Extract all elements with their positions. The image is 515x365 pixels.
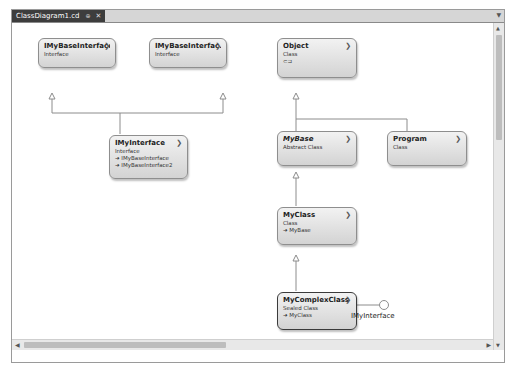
- shape-myclass[interactable]: MyClass Class ➜ MyBase ❯: [277, 207, 357, 245]
- chevron-down-icon[interactable]: ❯: [345, 211, 351, 219]
- chevron-down-icon[interactable]: ❯: [345, 296, 351, 304]
- chevron-down-icon[interactable]: ❯: [345, 135, 351, 143]
- tab-classdiagram[interactable]: ClassDiagram1.cd⊕✕: [12, 10, 105, 22]
- shape-mybase[interactable]: MyBase Abstract Class ❯: [277, 131, 357, 166]
- scroll-down-icon[interactable]: ▼: [496, 342, 500, 348]
- shape-imybaseinterface2[interactable]: IMyBaseInterfac... Interface ❯: [149, 38, 227, 68]
- chevron-down-icon[interactable]: ❯: [215, 42, 221, 50]
- vertical-scrollbar[interactable]: ▲ ▼: [493, 23, 504, 350]
- scroll-right-icon[interactable]: ▶: [486, 341, 491, 348]
- chevron-down-icon[interactable]: ❯: [455, 135, 461, 143]
- inherits-item: ➜ IMyBaseInterface2: [115, 162, 182, 168]
- horizontal-scrollbar[interactable]: ◀ ▶: [12, 339, 494, 350]
- shape-imybaseinterface[interactable]: IMyBaseInterface Interface ❯: [38, 38, 116, 68]
- lollipop-label: IMyInterface: [351, 312, 395, 320]
- diagram-canvas[interactable]: IMyBaseInterface Interface ❯ IMyBaseInte…: [12, 23, 494, 350]
- close-icon[interactable]: ✕: [95, 12, 101, 20]
- inherits-item: ➜ IMyBaseInterface: [115, 155, 182, 161]
- vertical-scroll-thumb[interactable]: [496, 35, 502, 140]
- chevron-down-icon[interactable]: ❯: [176, 139, 182, 147]
- compartment-toggle-icon[interactable]: ⊂⊐: [283, 58, 351, 64]
- inherits-item: ➜ MyBase: [283, 227, 351, 233]
- class-diagram-window: ClassDiagram1.cd⊕✕ ▼: [11, 9, 505, 363]
- connectors: [12, 23, 494, 350]
- shape-imyinterface[interactable]: IMyInterface Interface ➜ IMyBaseInterfac…: [109, 135, 188, 179]
- shape-mycomplexclass[interactable]: MyComplexClass Sealed Class ➜ MyClass ❯: [277, 292, 357, 330]
- tab-dropdown-icon[interactable]: ▼: [496, 11, 501, 18]
- shape-program[interactable]: Program Class ❯: [387, 131, 467, 166]
- pin-icon[interactable]: ⊕: [85, 12, 90, 19]
- scroll-left-icon[interactable]: ◀: [15, 341, 20, 348]
- shape-object[interactable]: Object Class ⊂⊐ ❯: [277, 38, 357, 78]
- chevron-down-icon[interactable]: ❯: [345, 42, 351, 50]
- scroll-up-icon[interactable]: ▲: [496, 25, 500, 31]
- chevron-down-icon[interactable]: ❯: [104, 42, 110, 50]
- inherits-item: ➜ MyClass: [283, 312, 351, 318]
- tab-title: ClassDiagram1.cd: [16, 12, 79, 20]
- horizontal-scroll-thumb[interactable]: [24, 342, 226, 348]
- tab-strip: ClassDiagram1.cd⊕✕ ▼: [12, 10, 504, 23]
